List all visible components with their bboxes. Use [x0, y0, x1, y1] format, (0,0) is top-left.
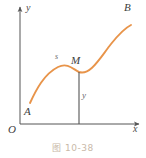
figure-10-38: y x O A B M s y 图 10-38: [0, 0, 146, 158]
y-axis-label: y: [26, 3, 30, 13]
x-axis-label: x: [133, 124, 137, 134]
ordinate-label: y: [82, 91, 86, 100]
curve-ab: [30, 25, 131, 103]
point-b-label: B: [124, 2, 131, 13]
figure-caption: 图 10-38: [0, 141, 146, 154]
arc-length-label: s: [55, 53, 58, 61]
origin-label: O: [8, 124, 16, 135]
point-m-label: M: [71, 55, 80, 66]
point-a-label: A: [24, 106, 31, 117]
figure-drawing-canvas: [0, 0, 146, 158]
